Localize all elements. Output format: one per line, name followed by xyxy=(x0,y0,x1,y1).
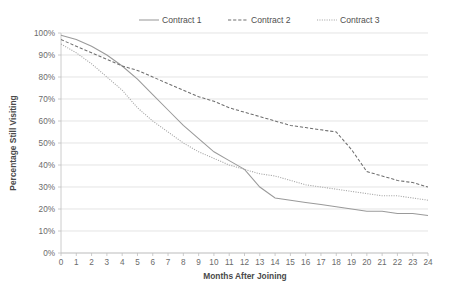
y-tick-label: 100% xyxy=(34,29,55,38)
x-tick-label: 10 xyxy=(209,258,219,267)
y-tick-label: 90% xyxy=(39,51,55,60)
x-tick-label: 1 xyxy=(74,258,79,267)
y-tick-label: 20% xyxy=(39,205,55,214)
x-tick-label: 16 xyxy=(301,258,311,267)
y-tick-label: 80% xyxy=(39,73,55,82)
x-tick-label: 5 xyxy=(135,258,140,267)
data-series xyxy=(61,35,428,215)
x-tick-label: 15 xyxy=(286,258,296,267)
x-tick-label: 0 xyxy=(59,258,64,267)
x-tick-label: 22 xyxy=(393,258,403,267)
y-tick-label: 40% xyxy=(39,161,55,170)
line-chart: 0%10%20%30%40%50%60%70%80%90%100% 012345… xyxy=(0,0,453,296)
x-tick-label: 7 xyxy=(166,258,171,267)
y-tick-label: 70% xyxy=(39,95,55,104)
x-tick-label: 20 xyxy=(362,258,372,267)
chart-container: 0%10%20%30%40%50%60%70%80%90%100% 012345… xyxy=(0,0,453,296)
x-tick-label: 13 xyxy=(255,258,265,267)
y-axis-tick-labels: 0%10%20%30%40%50%60%70%80%90%100% xyxy=(34,29,61,258)
chart-legend: Contract 1Contract 2Contract 3 xyxy=(139,15,380,25)
x-tick-label: 2 xyxy=(89,258,94,267)
y-tick-label: 0% xyxy=(43,249,55,258)
x-tick-label: 4 xyxy=(120,258,125,267)
x-tick-label: 21 xyxy=(378,258,388,267)
x-tick-label: 18 xyxy=(332,258,342,267)
x-tick-label: 14 xyxy=(271,258,281,267)
legend-label-2: Contract 2 xyxy=(251,15,291,25)
x-tick-label: 23 xyxy=(408,258,418,267)
y-tick-label: 60% xyxy=(39,117,55,126)
x-axis-tick-labels: 0123456789101112131415161718192021222324 xyxy=(59,253,433,267)
series-line-contract-1 xyxy=(61,35,428,215)
x-tick-label: 6 xyxy=(150,258,155,267)
x-tick-label: 8 xyxy=(181,258,186,267)
x-tick-label: 17 xyxy=(316,258,326,267)
y-axis-title: Percentage Still Visiting xyxy=(8,95,18,190)
x-tick-label: 12 xyxy=(240,258,250,267)
legend-label-1: Contract 1 xyxy=(162,15,202,25)
x-tick-label: 11 xyxy=(225,258,234,267)
x-tick-label: 3 xyxy=(105,258,110,267)
series-line-contract-3 xyxy=(61,44,428,200)
legend-label-3: Contract 3 xyxy=(340,15,380,25)
y-tick-label: 30% xyxy=(39,183,55,192)
y-tick-label: 50% xyxy=(39,139,55,148)
x-axis-title: Months After Joining xyxy=(203,271,286,281)
x-tick-label: 19 xyxy=(347,258,357,267)
x-tick-label: 24 xyxy=(423,258,433,267)
y-tick-label: 10% xyxy=(39,227,55,236)
gridlines xyxy=(61,33,428,253)
x-tick-label: 9 xyxy=(196,258,201,267)
